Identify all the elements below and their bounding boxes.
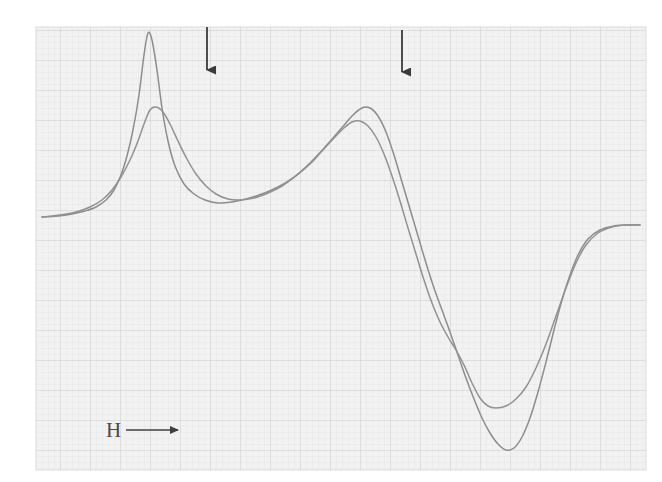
figure-container: H (0, 0, 662, 482)
graph-paper (36, 27, 646, 470)
axis-label-letter: H (106, 418, 121, 442)
graph-paper-grid (36, 27, 646, 470)
spectrum-figure: H (0, 0, 662, 482)
